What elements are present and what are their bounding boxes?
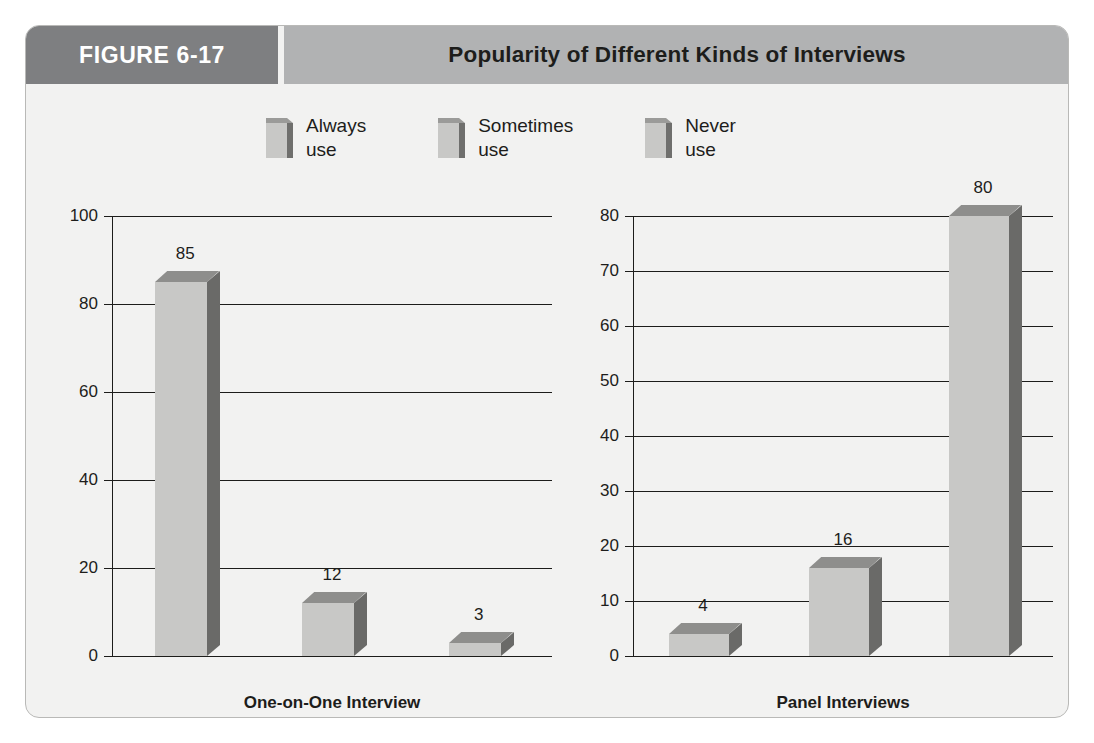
y-axis-line xyxy=(112,216,113,656)
bar-front-face xyxy=(302,603,354,656)
y-tick-mark xyxy=(104,392,112,393)
figure-title: Popularity of Different Kinds of Intervi… xyxy=(284,26,1069,84)
bar-value-label: 12 xyxy=(306,565,358,585)
y-tick-mark xyxy=(625,326,633,327)
bar-swatch-icon xyxy=(438,118,464,158)
bar-swatch-icon xyxy=(645,118,671,158)
chart-legend: Always useSometimes useNever use xyxy=(266,114,906,174)
y-tick-label: 30 xyxy=(600,481,619,501)
y-tick-mark xyxy=(625,436,633,437)
x-axis-caption: One-on-One Interview xyxy=(112,693,552,713)
y-tick-label: 20 xyxy=(600,536,619,556)
legend-item-label: Sometimes use xyxy=(478,114,573,162)
y-tick-mark xyxy=(625,271,633,272)
plot-wrap: 0102030405060708041680 xyxy=(571,206,1061,666)
gridline xyxy=(112,656,552,657)
figure-header: FIGURE 6-17 Popularity of Different Kind… xyxy=(26,26,1069,84)
bar xyxy=(669,623,729,656)
y-tick-mark xyxy=(104,568,112,569)
bar-value-label: 4 xyxy=(673,596,733,616)
y-tick-mark xyxy=(625,656,633,657)
y-tick-label: 100 xyxy=(70,206,98,226)
figure-card: FIGURE 6-17 Popularity of Different Kind… xyxy=(25,25,1069,718)
bar-front-face xyxy=(669,634,729,656)
bar-value-label: 3 xyxy=(453,605,505,625)
plot-area: 85123 xyxy=(112,216,552,656)
legend-item-label: Always use xyxy=(306,114,366,162)
bar-side-face xyxy=(207,271,220,656)
y-tick-label: 40 xyxy=(79,470,98,490)
y-tick-mark xyxy=(625,546,633,547)
y-tick-label: 80 xyxy=(600,206,619,226)
y-tick-label: 80 xyxy=(79,294,98,314)
y-tick-mark xyxy=(625,491,633,492)
bar xyxy=(155,271,207,656)
y-tick-label: 50 xyxy=(600,371,619,391)
bar-front-face xyxy=(949,216,1009,656)
y-tick-mark xyxy=(104,480,112,481)
bar xyxy=(449,632,501,656)
y-tick-label: 60 xyxy=(79,382,98,402)
y-tick-label: 40 xyxy=(600,426,619,446)
bar-front-face xyxy=(809,568,869,656)
bar-side-face xyxy=(354,592,367,656)
y-tick-label: 20 xyxy=(79,558,98,578)
y-tick-label: 0 xyxy=(610,646,619,666)
bar-side-face xyxy=(869,557,882,656)
bar-side-face xyxy=(1009,205,1022,656)
bar-value-label: 80 xyxy=(953,178,1013,198)
chart-panel-interviews: 0102030405060708041680Panel Interviews xyxy=(571,206,1061,716)
bar-front-face xyxy=(155,282,207,656)
y-tick-mark xyxy=(625,216,633,217)
legend-item: Never use xyxy=(645,114,736,162)
y-tick-label: 0 xyxy=(89,646,98,666)
bar xyxy=(302,592,354,656)
gridline xyxy=(112,216,552,217)
y-tick-label: 60 xyxy=(600,316,619,336)
y-tick-mark xyxy=(104,216,112,217)
figure-number-label: FIGURE 6-17 xyxy=(79,42,225,69)
bar xyxy=(809,557,869,656)
y-tick-mark xyxy=(625,601,633,602)
y-tick-mark xyxy=(625,381,633,382)
plot-wrap: 02040608010085123 xyxy=(40,206,560,666)
gridline xyxy=(633,656,1053,657)
bar-front-face xyxy=(449,643,501,656)
legend-item: Sometimes use xyxy=(438,114,573,162)
bar xyxy=(949,205,1009,656)
legend-item: Always use xyxy=(266,114,366,162)
y-tick-mark xyxy=(104,656,112,657)
bar-swatch-icon xyxy=(266,118,292,158)
legend-item-label: Never use xyxy=(685,114,736,162)
x-axis-caption: Panel Interviews xyxy=(633,693,1053,713)
y-tick-mark xyxy=(104,304,112,305)
plot-area: 41680 xyxy=(633,216,1053,656)
bar-value-label: 85 xyxy=(159,244,211,264)
bar-value-label: 16 xyxy=(813,530,873,550)
y-tick-label: 70 xyxy=(600,261,619,281)
y-tick-label: 10 xyxy=(600,591,619,611)
chart-one-on-one-interview: 02040608010085123One-on-One Interview xyxy=(40,206,560,716)
figure-number-tab: FIGURE 6-17 xyxy=(26,26,278,84)
